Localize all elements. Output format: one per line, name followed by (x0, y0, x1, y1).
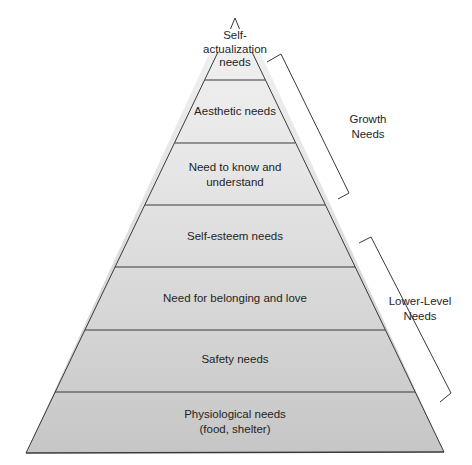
level-self-esteem: Self-esteem needs (135, 229, 335, 243)
growth-needs-label: Growth Needs (338, 112, 398, 142)
level-self-actualization: Self- actualization needs (185, 29, 285, 70)
level-aesthetic: Aesthetic needs (160, 104, 310, 118)
level-physiological: Physiological needs (food, shelter) (110, 407, 360, 437)
lower-level-needs-label: Lower-Level Needs (375, 294, 465, 324)
level-belonging-love: Need for belonging and love (110, 291, 360, 305)
level-safety: Safety needs (110, 352, 360, 366)
level-know-understand: Need to know and understand (140, 160, 330, 190)
